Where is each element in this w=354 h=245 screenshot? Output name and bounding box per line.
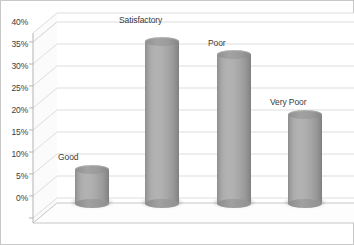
bar-good[interactable] [75, 169, 109, 203]
y-tick-40: 40% [0, 17, 28, 27]
bar-poor[interactable] [217, 54, 251, 203]
y-tick-20: 20% [0, 105, 28, 115]
data-label-good: Good [58, 152, 78, 162]
bar-poor-cap [217, 50, 251, 59]
bar-good-base [75, 199, 109, 208]
y-tick-35: 35% [0, 39, 28, 49]
y-tick-5: 5% [0, 171, 28, 181]
bar-good-body [75, 169, 109, 203]
bar-very-poor-cap [288, 110, 322, 119]
bar-poor-base [217, 199, 251, 208]
bar-satisfactory-cap [145, 37, 179, 46]
cylinder-bar-chart: 40% 35% 30% 25% 20% 15% 10% 5% 0% [0, 0, 354, 245]
bar-very-poor-base [288, 199, 322, 208]
bar-very-poor-body [288, 114, 322, 203]
bar-very-poor[interactable] [288, 114, 322, 203]
bar-good-cap [75, 165, 109, 174]
bar-satisfactory-base [145, 199, 179, 208]
y-tick-10: 10% [0, 149, 28, 159]
y-tick-30: 30% [0, 61, 28, 71]
y-tick-0: 0% [0, 193, 28, 203]
bar-satisfactory[interactable] [145, 41, 179, 203]
data-label-very-poor: Very Poor [270, 97, 306, 107]
bar-poor-body [217, 54, 251, 203]
side-wall [33, 13, 57, 223]
y-tick-25: 25% [0, 83, 28, 93]
data-label-poor: Poor [208, 38, 226, 48]
y-tick-15: 15% [0, 127, 28, 137]
bar-satisfactory-body [145, 41, 179, 203]
data-label-satisfactory: Satisfactory [119, 15, 162, 25]
